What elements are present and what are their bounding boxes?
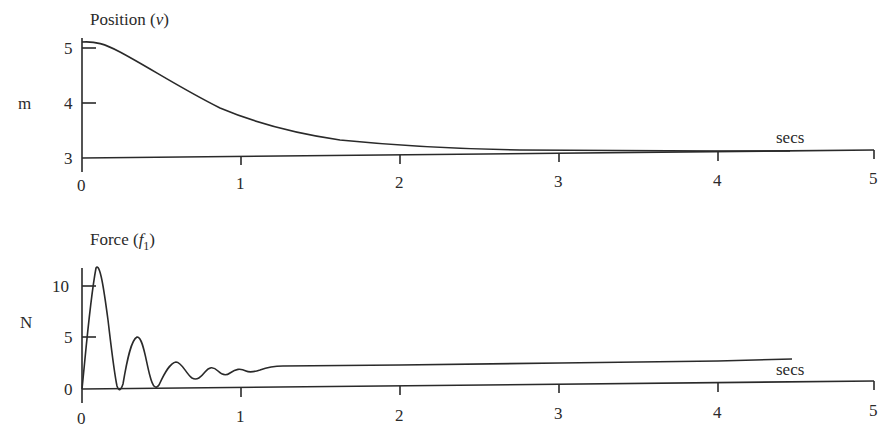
chart-canvas: Position (v) m 5 4 3 0 1 2 3 4 5 secs Fo…: [0, 0, 884, 439]
force-x-tick-label: 4: [713, 403, 722, 422]
position-y-unit-label: m: [18, 94, 31, 113]
force-chart-title: Force (f1): [90, 230, 155, 253]
position-curve: [82, 42, 790, 151]
position-x-tick-label: 2: [395, 173, 404, 192]
force-x-tick-label: 1: [236, 407, 245, 426]
position-chart-title: Position (v): [90, 10, 169, 29]
force-chart: Force (f1) N 10 5 0 0 1 2 3 4 5 secs: [20, 230, 878, 428]
force-y-tick-label: 0: [64, 380, 73, 399]
force-x-tick-label: 2: [395, 406, 404, 425]
position-chart: Position (v) m 5 4 3 0 1 2 3 4 5 secs: [18, 10, 878, 195]
force-y-tick-label: 5: [64, 328, 73, 347]
position-x-tick-label: 4: [713, 171, 722, 190]
position-x-tick-label: 5: [869, 169, 878, 188]
position-y-tick-label: 4: [64, 94, 73, 113]
force-x-tick-label: 5: [869, 401, 878, 420]
position-x-unit-label: secs: [776, 128, 804, 147]
force-x-unit-label: secs: [776, 360, 804, 379]
force-x-tick-label: 3: [554, 404, 563, 423]
position-y-tick-label: 3: [64, 149, 73, 168]
force-y-unit-label: N: [20, 313, 32, 332]
position-y-tick-label: 5: [64, 39, 73, 58]
force-y-tick-label: 10: [52, 277, 69, 296]
force-x-axis: [82, 381, 874, 389]
position-x-tick-label: 3: [554, 172, 563, 191]
position-x-tick-label: 1: [236, 174, 245, 193]
position-x-tick-label: 0: [77, 176, 86, 195]
force-x-tick-label: 0: [77, 409, 86, 428]
force-curve: [82, 267, 792, 389]
